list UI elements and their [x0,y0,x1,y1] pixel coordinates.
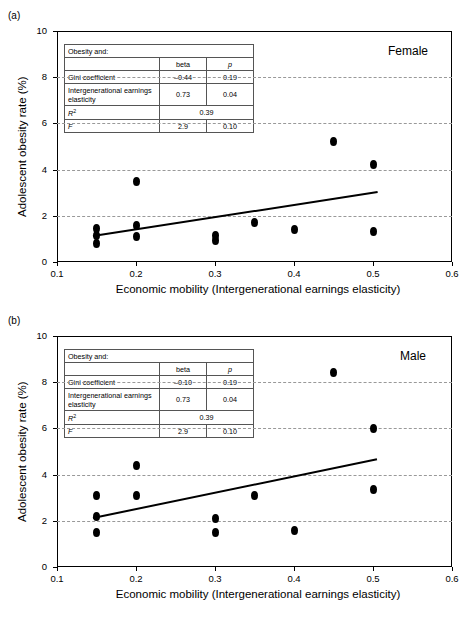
table-row: beta p [65,363,254,376]
gridline-y-8 [57,382,452,383]
stats-header-p: p [207,363,254,376]
gridline-y-2 [57,521,452,522]
x-tick-label-0.3: 0.3 [202,268,228,279]
data-point [133,177,140,186]
stats-row-beta: 0.73 [160,84,207,106]
table-row: beta p [65,58,254,71]
x-tick-label-0.2: 0.2 [123,268,149,279]
y-tick-6 [53,123,57,124]
panel-b-y-axis-title: Adolescent obesity rate (%) [16,381,28,522]
stats-header-beta: beta [160,363,207,376]
stats-r2-value: 0.39 [160,411,254,425]
y-tick-label-0: 0 [31,561,47,572]
data-point [212,514,219,523]
data-point [93,239,100,248]
panel-b: (b) Adolescent obesity rate (%) Economic… [0,305,466,617]
data-point [212,236,219,245]
panel-b-x-axis-title: Economic mobility (Intergenerational ear… [58,588,458,600]
x-tick-0.4 [294,262,295,266]
y-tick-label-4: 4 [31,164,47,175]
panel-a-x-axis-title: Economic mobility (Intergenerational ear… [58,283,458,295]
table-row: F 2.9 0.10 [65,425,254,438]
x-tick-0.2 [136,262,137,266]
x-tick-0.5 [373,567,374,571]
y-tick-label-8: 8 [31,71,47,82]
x-tick-0.5 [373,262,374,266]
y-tick-label-6: 6 [31,117,47,128]
y-tick-label-10: 10 [31,25,47,36]
stats-row-p: 0.04 [207,84,254,106]
x-tick-0.2 [136,567,137,571]
stats-r2-label: R2 [65,411,160,425]
panel-a-stats-table: Obesity and: beta p Gini coefficient –0.… [64,44,254,133]
stats-row-label: Intergenerational earnings elasticity [65,389,160,411]
stats-f-p: 0.10 [207,425,254,438]
x-tick-label-0.6: 0.6 [439,573,465,584]
data-point [133,461,140,470]
y-tick-label-8: 8 [31,376,47,387]
x-tick-label-0.5: 0.5 [360,268,386,279]
stats-f-label: F [65,425,160,438]
y-tick-label-0: 0 [31,256,47,267]
x-tick-label-0.6: 0.6 [439,268,465,279]
y-tick-2 [53,216,57,217]
panel-b-stats-table: Obesity and: beta p Gini coefficient –0.… [64,349,254,438]
gridline-y-8 [57,77,452,78]
data-point [291,225,298,234]
data-point [251,491,258,500]
x-tick-label-0.1: 0.1 [44,268,70,279]
gridline-y-4 [57,170,452,171]
y-tick-10 [53,336,57,337]
table-row: F 2.9 0.10 [65,120,254,133]
table-row: Obesity and: [65,350,254,363]
table-row: R2 0.39 [65,411,254,425]
stats-row-p: 0.04 [207,389,254,411]
data-point [133,221,140,230]
y-tick-2 [53,521,57,522]
data-point [370,485,377,494]
y-tick-label-10: 10 [31,330,47,341]
x-tick-0.6 [452,567,453,571]
data-point [370,227,377,236]
y-tick-4 [53,475,57,476]
stats-f-value: 2.9 [160,120,207,133]
data-point [133,232,140,241]
x-tick-0.1 [57,567,58,571]
stats-header-p: p [207,58,254,71]
data-point [93,528,100,537]
x-tick-0.4 [294,567,295,571]
x-tick-label-0.5: 0.5 [360,573,386,584]
y-tick-label-6: 6 [31,422,47,433]
stats-blank-cell [65,58,160,71]
y-tick-8 [53,77,57,78]
x-tick-label-0.2: 0.2 [123,573,149,584]
data-point [93,491,100,500]
stats-r2-value: 0.39 [160,106,254,120]
data-point [93,512,100,521]
table-row: R2 0.39 [65,106,254,120]
data-point [291,526,298,535]
stats-f-label: F [65,120,160,133]
stats-blank-cell [65,363,160,376]
stats-row-label: Intergenerational earnings elasticity [65,84,160,106]
y-tick-label-2: 2 [31,210,47,221]
stats-row-beta: 0.73 [160,389,207,411]
data-point [370,160,377,169]
y-tick-label-2: 2 [31,515,47,526]
gridline-y-6 [57,428,452,429]
x-tick-0.6 [452,262,453,266]
data-point [370,424,377,433]
table-row: Intergenerational earnings elasticity 0.… [65,84,254,106]
x-tick-0.1 [57,262,58,266]
gridline-y-2 [57,216,452,217]
y-tick-6 [53,428,57,429]
panel-b-group-label: Male [400,349,426,363]
y-tick-label-4: 4 [31,469,47,480]
stats-f-value: 2.9 [160,425,207,438]
table-row: Intergenerational earnings elasticity 0.… [65,389,254,411]
r2-exponent: 2 [73,108,76,114]
stats-f-p: 0.10 [207,120,254,133]
panel-b-label: (b) [8,315,20,326]
data-point [212,528,219,537]
y-tick-4 [53,170,57,171]
